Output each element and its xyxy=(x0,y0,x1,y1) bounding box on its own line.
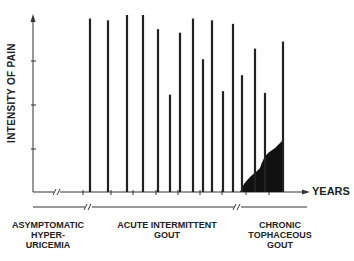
phase-label-line: ASYMPTOMATIC xyxy=(6,220,90,230)
phase-chronic-tophaceous-gout: CHRONIC TOPHACEOUS GOUT xyxy=(240,220,320,250)
phase-label-line: TOPHACEOUS xyxy=(240,230,320,240)
y-axis xyxy=(31,14,37,192)
x-axis-arrow-icon xyxy=(302,190,310,195)
phase-label-line: HYPER- xyxy=(6,230,90,240)
phase-label-line: ACUTE INTERMITTENT xyxy=(112,220,222,230)
x-axis-label: YEARS xyxy=(312,185,350,197)
phase-label-line: GOUT xyxy=(240,240,320,250)
phase-asymptomatic-hyperuricemia: ASYMPTOMATIC HYPER- URICEMIA xyxy=(6,220,90,250)
pain-spikes xyxy=(90,15,283,192)
phase-timeline xyxy=(33,204,307,210)
y-axis-arrow-icon xyxy=(31,14,36,22)
chronic-pain-area xyxy=(240,140,284,192)
phase-acute-intermittent-gout: ACUTE INTERMITTENT GOUT xyxy=(112,220,222,240)
y-axis-label: INTENSITY OF PAIN xyxy=(6,33,20,153)
phase-label-line: GOUT xyxy=(112,230,222,240)
phase-label-line: URICEMIA xyxy=(6,240,90,250)
phase-label-line: CHRONIC xyxy=(240,220,320,230)
